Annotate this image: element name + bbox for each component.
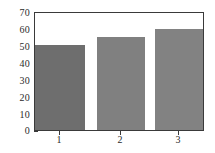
y-axis-tick-label: 50 bbox=[10, 42, 30, 52]
y-axis-tick-label: 0 bbox=[10, 126, 30, 136]
bar-category-2 bbox=[97, 37, 145, 131]
bar-category-1 bbox=[35, 45, 85, 130]
y-axis-tick-label: 60 bbox=[10, 25, 30, 35]
y-axis-tick-label: 20 bbox=[10, 93, 30, 103]
x-axis-tick-label: 3 bbox=[168, 134, 188, 146]
bars-layer bbox=[35, 13, 203, 130]
x-axis-tick-labels: 1 2 3 bbox=[34, 134, 204, 150]
bar-chart-figure: 70 60 50 40 30 20 10 0 1 2 3 bbox=[0, 0, 215, 153]
x-axis-tick-label: 2 bbox=[110, 134, 130, 146]
y-axis-tick-label: 70 bbox=[10, 8, 30, 18]
y-axis-tick-label: 40 bbox=[10, 59, 30, 69]
y-axis-tick-label: 10 bbox=[10, 110, 30, 120]
bar-category-3 bbox=[155, 29, 203, 130]
plot-area bbox=[34, 12, 204, 131]
y-axis-tick-label: 30 bbox=[10, 76, 30, 86]
x-axis-tick-label: 1 bbox=[49, 134, 69, 146]
y-axis-tick-labels: 70 60 50 40 30 20 10 0 bbox=[8, 0, 30, 153]
